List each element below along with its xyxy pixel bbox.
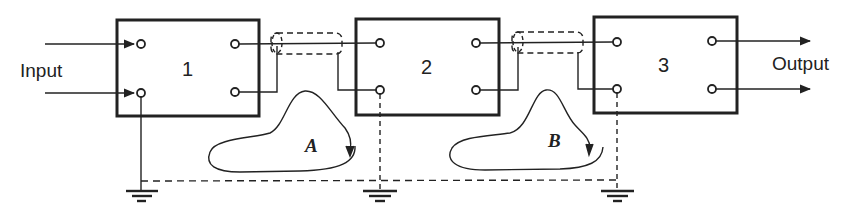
input-label: Input [20,60,63,81]
loop-b-label: B [547,130,561,151]
block-2: 2 [356,19,499,115]
ground-icon [126,191,158,201]
ground-loop-diagram: Input 1 2 3 [0,0,855,223]
loop-b [450,90,603,170]
block-2-label: 2 [421,56,432,78]
output-label: Output [772,53,830,74]
ground-wires [141,93,617,191]
ground-icon [601,191,634,201]
block-1: 1 [117,20,259,116]
block-1-label: 1 [182,58,193,80]
block-3-label: 3 [658,54,669,76]
block-3: 3 [594,17,737,113]
loop-a-label: A [304,135,318,156]
ground-icon [363,191,397,201]
loop-a [209,91,355,172]
